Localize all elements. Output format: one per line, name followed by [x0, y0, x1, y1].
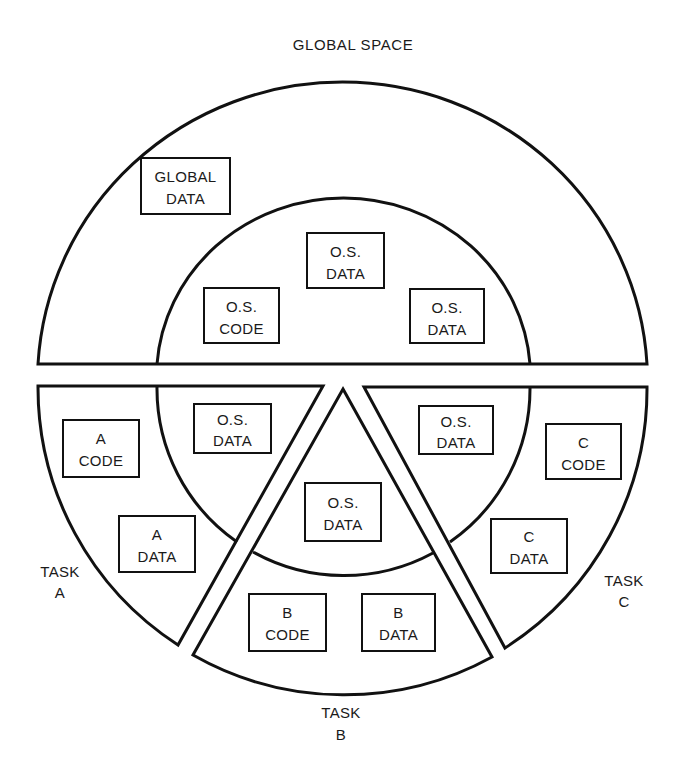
box-label-line2: CODE	[79, 452, 124, 469]
box-label-line2: DATA	[428, 321, 467, 338]
c-code-box: C CODE	[546, 424, 621, 479]
task-a-label-line2: A	[55, 584, 65, 601]
box-label-line1: O.S.	[226, 298, 257, 315]
box-label-line1: O.S.	[330, 243, 361, 260]
box-label-line1: C	[523, 528, 534, 545]
box-label-line1: B	[393, 604, 403, 621]
box-label-line2: DATA	[138, 548, 177, 565]
box-label-line1: O.S.	[440, 413, 471, 430]
global-data-box: GLOBAL DATA	[141, 158, 230, 214]
box-label-line1: O.S.	[217, 411, 248, 428]
box-label-line2: CODE	[265, 626, 310, 643]
task-b-label-line1: TASK	[321, 704, 360, 721]
os-code-box: O.S. CODE	[204, 288, 279, 343]
box-label-line2: CODE	[561, 456, 606, 473]
task-b-label-line2: B	[336, 726, 346, 743]
box-label-line1: C	[578, 434, 589, 451]
task-c-label-line1: TASK	[604, 572, 643, 589]
box-label-line2: DATA	[510, 550, 549, 567]
os-data-box-right: O.S. DATA	[410, 289, 484, 343]
box-label-line2: DATA	[379, 626, 418, 643]
global-space-title: GLOBAL SPACE	[293, 36, 414, 53]
b-data-box: B DATA	[362, 594, 435, 651]
a-data-box: A DATA	[119, 516, 195, 572]
b-os-data-box: O.S. DATA	[305, 483, 381, 541]
box-label-line1: GLOBAL	[155, 168, 217, 185]
a-os-data-box: O.S. DATA	[194, 404, 271, 453]
os-data-box-top: O.S. DATA	[307, 233, 384, 288]
box-label-line1: B	[282, 604, 292, 621]
address-space-diagram: GLOBAL SPACE GLOBAL DATA O.S. DATA O.S. …	[0, 0, 682, 765]
box-label-line2: CODE	[219, 320, 264, 337]
global-space-outer-arc	[38, 82, 647, 364]
global-space-region: GLOBAL DATA O.S. DATA O.S. CODE O.S. DAT…	[38, 82, 647, 364]
task-b-os-arc	[253, 552, 433, 576]
box-label-line1: O.S.	[327, 494, 358, 511]
box-label-line2: DATA	[213, 432, 252, 449]
box-label-line1: A	[96, 430, 106, 447]
task-a-label-line1: TASK	[40, 563, 79, 580]
c-os-data-box: O.S. DATA	[419, 406, 493, 454]
task-c-label-line2: C	[618, 593, 629, 610]
a-code-box: A CODE	[63, 420, 139, 477]
box-label-line2: DATA	[437, 434, 476, 451]
box-label-line1: O.S.	[431, 299, 462, 316]
box-label-line2: DATA	[326, 265, 365, 282]
box-label-line2: DATA	[324, 516, 363, 533]
box-label-line2: DATA	[166, 190, 205, 207]
c-data-box: C DATA	[491, 519, 567, 573]
b-code-box: B CODE	[249, 594, 326, 651]
box-label-line1: A	[152, 526, 162, 543]
